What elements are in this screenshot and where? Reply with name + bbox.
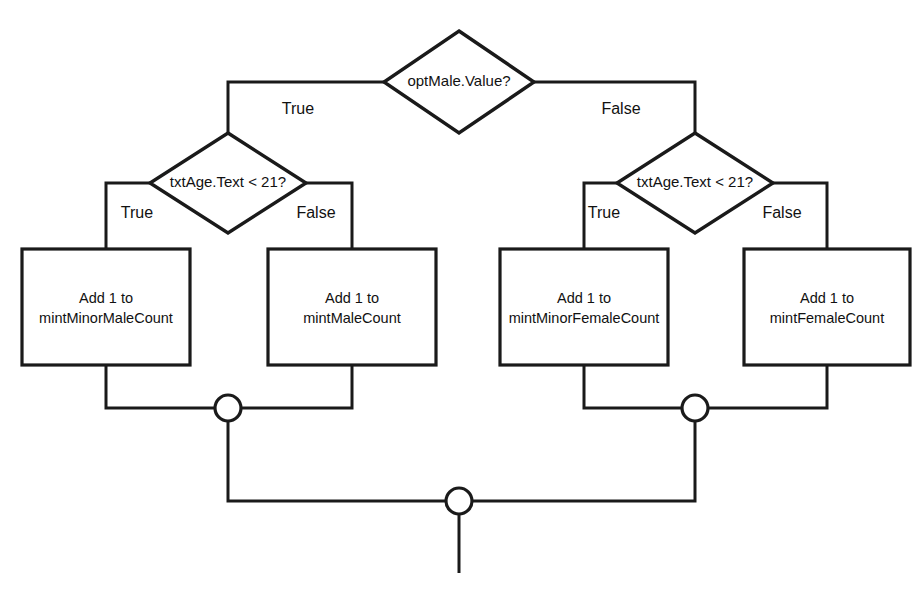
process-box-label-line2: mintMaleCount [303,310,401,326]
merge-connector-circle[interactable] [446,488,472,514]
decision-diamond[interactable]: txtAge.Text < 21? [617,133,773,233]
branch-label-true: True [282,100,314,117]
flow-connector-line [584,365,682,408]
flow-connector-line [241,365,352,408]
decision-label: txtAge.Text < 21? [637,173,753,190]
process-box-label-line1: Add 1 to [800,290,854,306]
process-box[interactable]: Add 1 tomintMaleCount [268,249,436,365]
process-box-label-line1: Add 1 to [557,290,611,306]
process-box-label-line1: Add 1 to [79,290,133,306]
decision-diamond[interactable]: optMale.Value? [384,31,534,133]
flow-connector-line [106,365,215,408]
branch-label-false: False [601,100,640,117]
branch-label-true: True [588,204,620,221]
process-box-outline [744,249,910,365]
process-box-label-line1: Add 1 to [325,290,379,306]
process-box-outline [500,249,668,365]
process-box-label-line2: mintMinorMaleCount [39,310,173,326]
flowchart-diagram: Add 1 tomintMinorMaleCountAdd 1 tomintMa… [0,0,912,593]
decision-label: txtAge.Text < 21? [170,173,286,190]
process-box[interactable]: Add 1 tomintMinorFemaleCount [500,249,668,365]
process-box[interactable]: Add 1 tomintMinorMaleCount [22,249,190,365]
decision-label: optMale.Value? [407,72,510,89]
shape-layer: Add 1 tomintMinorMaleCountAdd 1 tomintMa… [22,31,910,365]
flow-connector-line [228,421,446,501]
branch-label-true: True [121,204,153,221]
connector-layer [215,395,708,514]
process-box-outline [22,249,190,365]
process-box-label-line2: mintFemaleCount [770,310,884,326]
branch-label-false: False [762,204,801,221]
flow-connector-line [708,365,827,408]
process-box[interactable]: Add 1 tomintFemaleCount [744,249,910,365]
branch-label-false: False [296,204,335,221]
merge-connector-circle[interactable] [215,395,241,421]
flowchart-canvas: Add 1 tomintMinorMaleCountAdd 1 tomintMa… [0,0,912,593]
process-box-outline [268,249,436,365]
decision-diamond[interactable]: txtAge.Text < 21? [150,133,306,233]
flow-connector-line [472,421,695,501]
merge-connector-circle[interactable] [682,395,708,421]
process-box-label-line2: mintMinorFemaleCount [509,310,660,326]
